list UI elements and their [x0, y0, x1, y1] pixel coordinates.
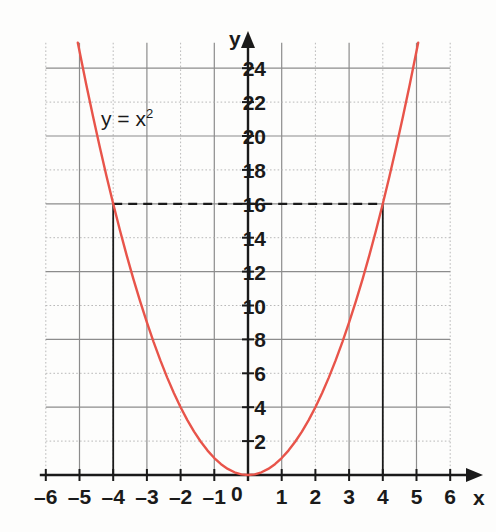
x-axis-tick-label: –3: [135, 486, 158, 507]
x-axis-tick-label: –2: [169, 486, 192, 507]
x-axis-tick-label: –6: [34, 486, 57, 507]
x-axis-label: x: [473, 487, 485, 508]
y-axis-tick-label: 8: [236, 329, 266, 350]
y-axis-label: y: [229, 28, 241, 49]
y-axis-tick-label: 22: [236, 92, 266, 113]
y-axis-tick-label: 6: [236, 363, 266, 384]
y-axis-tick-label: 4: [236, 397, 266, 418]
equation-exponent: 2: [146, 106, 153, 121]
y-axis-tick-label: 12: [236, 261, 266, 282]
equation-annotation: y = x2: [101, 107, 153, 129]
y-axis-tick-label: 2: [236, 431, 266, 452]
x-axis-tick-label: 5: [411, 486, 423, 507]
y-axis-tick-label: 14: [236, 227, 266, 248]
x-axis-arrowhead: [466, 468, 483, 482]
x-axis-tick-label: –1: [203, 486, 226, 507]
y-axis-tick-label: 24: [236, 58, 266, 79]
chart-canvas: –6–5–4–3–2–10123456 24681012141618202224…: [0, 0, 496, 532]
x-axis-tick-label: 4: [377, 486, 389, 507]
y-axis-tick-label: 18: [236, 159, 266, 180]
y-axis-tick-label: 10: [236, 295, 266, 316]
y-axis-tick-label: 20: [236, 126, 266, 147]
y-axis-tick-label: 16: [236, 193, 266, 214]
y-axis-arrowhead: [241, 31, 255, 48]
x-axis-tick-label: 2: [310, 486, 322, 507]
origin-label: 0: [231, 483, 243, 504]
x-axis-tick-label: –4: [102, 486, 125, 507]
equation-text: y = x: [101, 107, 146, 130]
x-axis-tick-label: 6: [444, 486, 456, 507]
x-axis-tick-label: –5: [68, 486, 91, 507]
x-axis-tick-label: 3: [343, 486, 355, 507]
x-axis-tick-label: 1: [276, 486, 288, 507]
